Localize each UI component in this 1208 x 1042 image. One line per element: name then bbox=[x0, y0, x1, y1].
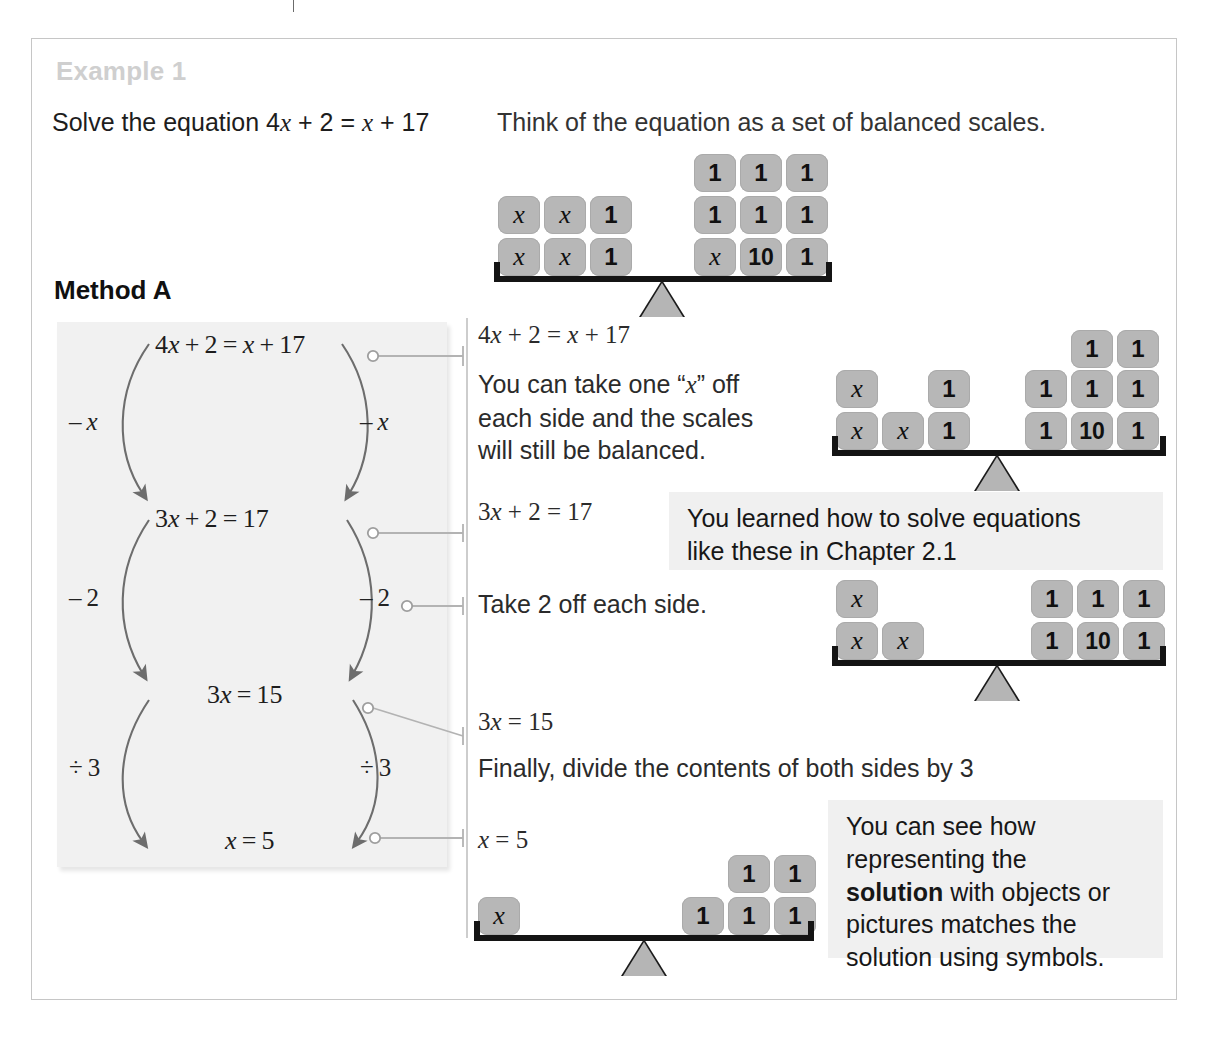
tile-x: x bbox=[882, 412, 924, 450]
balance-beam-end bbox=[1160, 436, 1166, 456]
balance-beam-end bbox=[474, 921, 480, 941]
fulcrum-fill bbox=[641, 283, 683, 317]
scan-artifact bbox=[293, 0, 294, 12]
flow-equation-1: 4x + 2 = x + 17 bbox=[155, 330, 305, 360]
example-title: Example 1 bbox=[56, 56, 186, 87]
tile-1: 1 bbox=[1071, 330, 1113, 368]
callout-chapter-reference: You learned how to solve equations like … bbox=[669, 492, 1163, 570]
tile-1: 1 bbox=[728, 855, 770, 893]
flow-equation-4: x = 5 bbox=[225, 826, 275, 856]
note-equation-3: 3x = 15 bbox=[478, 705, 553, 739]
tile-1: 1 bbox=[1117, 412, 1159, 450]
callout-line: solution with objects or bbox=[846, 876, 1147, 909]
tile-1: 1 bbox=[786, 196, 828, 234]
tile-1: 1 bbox=[786, 154, 828, 192]
tile-x: x bbox=[694, 238, 736, 276]
tile-1: 1 bbox=[1117, 330, 1159, 368]
callout-bold-solution: solution bbox=[846, 878, 943, 906]
note-equation-4: x = 5 bbox=[478, 823, 528, 857]
note-text-1: You can take one “x” off each side and t… bbox=[478, 368, 778, 467]
callout-line: pictures matches the bbox=[846, 908, 1147, 941]
tile-1: 1 bbox=[590, 196, 632, 234]
tile-1: 1 bbox=[928, 412, 970, 450]
flow-op-left-divide-3: ÷ 3 bbox=[69, 754, 100, 782]
balance-beam-end bbox=[494, 262, 500, 282]
scale-minus-2: x x x 1 1 1 1 10 1 bbox=[818, 580, 1168, 700]
note-text-3: Finally, divide the contents of both sid… bbox=[478, 752, 1018, 785]
tile-1: 1 bbox=[786, 238, 828, 276]
callout-line: like these in Chapter 2.1 bbox=[687, 535, 1147, 568]
scale-minus-x: x 1 x x 1 1 1 1 1 1 1 10 1 bbox=[828, 330, 1173, 475]
column-divider-rule bbox=[466, 318, 468, 938]
balance-beam-end bbox=[808, 921, 814, 941]
tile-1: 1 bbox=[1031, 622, 1073, 660]
tile-10: 10 bbox=[1071, 412, 1113, 450]
scale-initial: x x 1 x x 1 1 1 1 1 1 1 x 10 1 bbox=[488, 150, 848, 295]
tile-1: 1 bbox=[1025, 370, 1067, 408]
tile-1: 1 bbox=[694, 154, 736, 192]
callout-line: You can see how bbox=[846, 810, 1147, 843]
note-equation-2: 3x + 2 = 17 bbox=[478, 495, 592, 529]
balance-beam-end bbox=[1160, 646, 1166, 666]
balance-beam-end bbox=[826, 262, 832, 282]
tile-1: 1 bbox=[1077, 580, 1119, 618]
tile-1: 1 bbox=[694, 196, 736, 234]
tile-1: 1 bbox=[1031, 580, 1073, 618]
tile-x: x bbox=[882, 622, 924, 660]
callout-line: You learned how to solve equations bbox=[687, 502, 1147, 535]
flow-equation-3: 3x = 15 bbox=[207, 680, 283, 710]
note-text-2: Take 2 off each side. bbox=[478, 588, 808, 621]
tile-1: 1 bbox=[740, 154, 782, 192]
tile-x: x bbox=[836, 580, 878, 618]
tile-1: 1 bbox=[1025, 412, 1067, 450]
note-equation-1: 4x + 2 = x + 17 bbox=[478, 318, 630, 352]
tile-x: x bbox=[544, 238, 586, 276]
tile-1: 1 bbox=[740, 196, 782, 234]
tile-1: 1 bbox=[1123, 622, 1165, 660]
callout-line: solution using symbols. bbox=[846, 941, 1147, 974]
flow-op-left-minus-2: – 2 bbox=[69, 584, 99, 612]
tile-x: x bbox=[498, 238, 540, 276]
fulcrum-fill bbox=[976, 667, 1018, 701]
tile-x: x bbox=[836, 370, 878, 408]
tile-1: 1 bbox=[1117, 370, 1159, 408]
solve-prompt: Solve the equation 4x + 2 = x + 17 bbox=[52, 108, 429, 137]
tile-1: 1 bbox=[682, 897, 724, 935]
tile-1: 1 bbox=[928, 370, 970, 408]
think-prompt: Think of the equation as a set of balanc… bbox=[497, 108, 1046, 137]
fulcrum-fill bbox=[623, 942, 665, 976]
tile-1: 1 bbox=[774, 855, 816, 893]
scale-divide-3: x 1 1 1 1 1 bbox=[470, 855, 815, 970]
tile-x: x bbox=[478, 897, 520, 935]
tile-x: x bbox=[498, 196, 540, 234]
balance-beam-end bbox=[832, 436, 838, 456]
balance-beam-end bbox=[832, 646, 838, 666]
tile-10: 10 bbox=[740, 238, 782, 276]
fulcrum-fill bbox=[976, 457, 1018, 491]
connector-leaders bbox=[320, 318, 470, 938]
tile-1: 1 bbox=[728, 897, 770, 935]
callout-solution-summary: You can see how representing the solutio… bbox=[828, 800, 1163, 958]
flow-equation-2: 3x + 2 = 17 bbox=[155, 504, 269, 534]
tile-x: x bbox=[836, 622, 878, 660]
tile-10: 10 bbox=[1077, 622, 1119, 660]
tile-x: x bbox=[544, 196, 586, 234]
method-title: Method A bbox=[54, 275, 171, 306]
tile-x: x bbox=[836, 412, 878, 450]
textbook-page: Example 1 Solve the equation 4x + 2 = x … bbox=[0, 0, 1208, 1042]
callout-line: representing the bbox=[846, 843, 1147, 876]
tile-1: 1 bbox=[1071, 370, 1113, 408]
tile-1: 1 bbox=[1123, 580, 1165, 618]
callout-line-rest: with objects or bbox=[943, 878, 1110, 906]
flow-op-left-minus-x: – x bbox=[69, 408, 98, 436]
tile-1: 1 bbox=[590, 238, 632, 276]
